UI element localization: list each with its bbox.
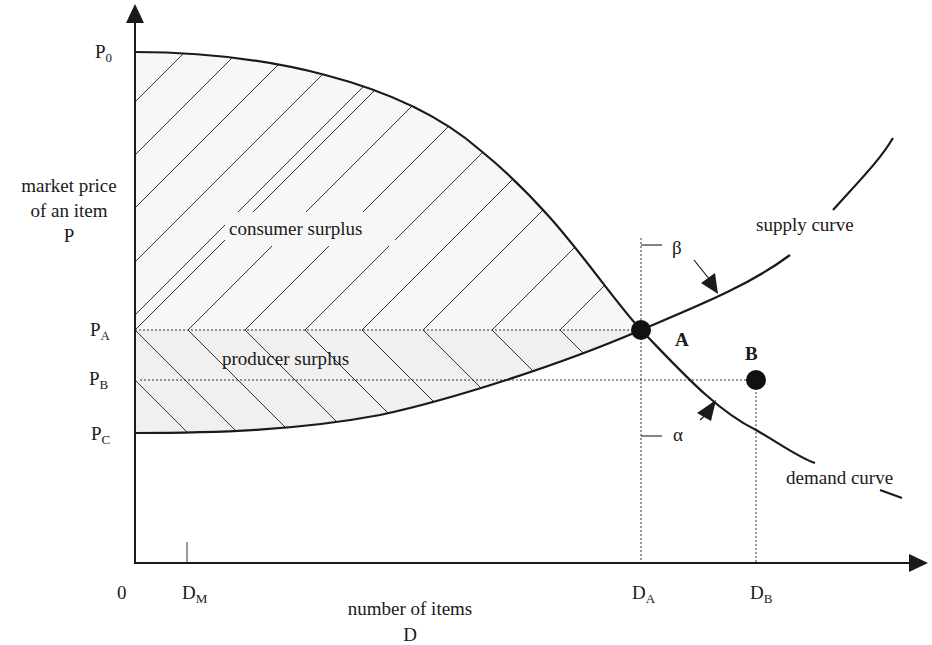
y-axis-arrow-icon xyxy=(126,4,144,23)
x-axis-label-line: number of items xyxy=(310,596,510,622)
diagram-canvas xyxy=(0,0,932,645)
y-axis-label-line: market price xyxy=(4,173,134,198)
tick-db: DB xyxy=(750,583,772,605)
beta-arrow-icon xyxy=(694,260,718,294)
producer-surplus-label: producer surplus xyxy=(222,349,349,368)
y-axis-label-line: of an item xyxy=(4,198,134,223)
beta-label: β xyxy=(672,238,682,257)
y-axis-label-line: P xyxy=(4,223,134,248)
supply-curve-tail xyxy=(833,138,893,210)
tick-da: DA xyxy=(632,583,655,605)
point-b-label: B xyxy=(745,344,758,363)
y-axis-label: market price of an item P xyxy=(4,173,134,248)
tick-pa: PA xyxy=(90,320,110,342)
tick-dm: DM xyxy=(182,583,207,605)
x-axis-label-line: D xyxy=(310,622,510,645)
consumer-surplus-label: consumer surplus xyxy=(229,219,363,238)
point-b-marker xyxy=(746,370,766,390)
point-a-marker xyxy=(631,320,651,340)
tick-p0: P0 xyxy=(95,42,112,64)
x-axis-arrow-icon xyxy=(909,554,928,572)
demand-curve-tail xyxy=(880,490,902,498)
demand-curve-label: demand curve xyxy=(786,468,893,487)
alpha-arrow-icon xyxy=(697,400,716,421)
tick-pc: PC xyxy=(91,424,110,446)
supply-curve-label: supply curve xyxy=(756,215,854,234)
x-axis-label: number of items D xyxy=(310,596,510,645)
tick-pb: PB xyxy=(89,369,108,391)
point-a-label: A xyxy=(675,330,689,349)
alpha-label: α xyxy=(673,425,683,444)
origin-label: 0 xyxy=(117,583,127,602)
x-axis xyxy=(134,554,928,572)
